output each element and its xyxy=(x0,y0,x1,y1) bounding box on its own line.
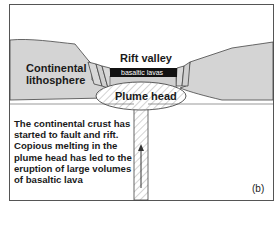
label-rift-valley: Rift valley xyxy=(120,52,172,64)
label-continental-lithosphere: Continental lithosphere xyxy=(26,62,87,86)
caption-line: Copious melting in the xyxy=(14,140,132,151)
label-basaltic-lavas: basaltic lavas xyxy=(121,69,163,77)
label-line: Continental xyxy=(26,62,87,74)
panel-label: (b) xyxy=(252,183,264,194)
label-plume-head: Plume head xyxy=(115,90,177,102)
label-line: lithosphere xyxy=(26,74,87,86)
caption-text: The continental crust has started to fau… xyxy=(14,118,132,185)
caption-line: eruption of large volumes xyxy=(14,163,132,174)
caption-line: The continental crust has xyxy=(14,118,132,129)
caption-line: started to fault and rift. xyxy=(14,129,132,140)
caption-line: of basaltic lava xyxy=(14,174,132,185)
caption-line: plume head has led to the xyxy=(14,152,132,163)
